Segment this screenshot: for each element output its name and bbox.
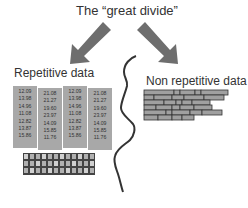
cell: 14.96 xyxy=(13,103,37,110)
cell: 21.08 xyxy=(38,90,62,97)
cell: 23.97 xyxy=(88,112,112,119)
cell: 11.76 xyxy=(38,134,62,141)
cell: 23.97 xyxy=(38,112,62,119)
cell: 21.27 xyxy=(38,97,62,104)
compressed-record-grid xyxy=(23,153,95,175)
non-repetitive-bricks xyxy=(144,90,228,120)
cell: 21.08 xyxy=(88,90,112,97)
cell: 12.82 xyxy=(13,118,37,125)
cell: 15.85 xyxy=(38,127,62,134)
cell: 19.60 xyxy=(38,105,62,112)
cell: 21.27 xyxy=(88,97,112,104)
cell: 13.87 xyxy=(13,125,37,132)
cell: 14.09 xyxy=(88,120,112,127)
arrow-down-right-icon xyxy=(137,22,178,64)
cell: 11.08 xyxy=(63,110,87,117)
cell: 12.09 xyxy=(13,88,37,95)
data-column-4: 21.08 21.27 19.60 23.97 14.09 15.85 11.7… xyxy=(88,88,112,150)
cell: 15.86 xyxy=(63,132,87,139)
cell: 13.87 xyxy=(63,125,87,132)
repetitive-data-label: Repetitive data xyxy=(14,66,94,80)
cell: 12.82 xyxy=(63,118,87,125)
data-column-3: 12.09 13.98 14.96 11.08 12.82 13.87 15.8… xyxy=(63,86,87,148)
cell: 13.98 xyxy=(63,95,87,102)
data-column-1: 12.09 13.98 14.96 11.08 12.82 13.87 15.8… xyxy=(13,86,37,148)
cell: 15.86 xyxy=(13,132,37,139)
divide-line xyxy=(114,56,136,192)
data-column-2: 21.08 21.27 19.60 23.97 14.09 15.85 11.7… xyxy=(38,88,62,150)
arrow-down-left-icon xyxy=(70,22,111,64)
cell: 19.60 xyxy=(88,105,112,112)
cell: 13.98 xyxy=(13,95,37,102)
cell: 11.76 xyxy=(88,134,112,141)
cell: 14.96 xyxy=(63,103,87,110)
cell: 12.09 xyxy=(63,88,87,95)
cell: 15.85 xyxy=(88,127,112,134)
cell: 11.08 xyxy=(13,110,37,117)
cell: 14.09 xyxy=(38,120,62,127)
non-repetitive-data-label: Non repetitive data xyxy=(146,74,247,88)
